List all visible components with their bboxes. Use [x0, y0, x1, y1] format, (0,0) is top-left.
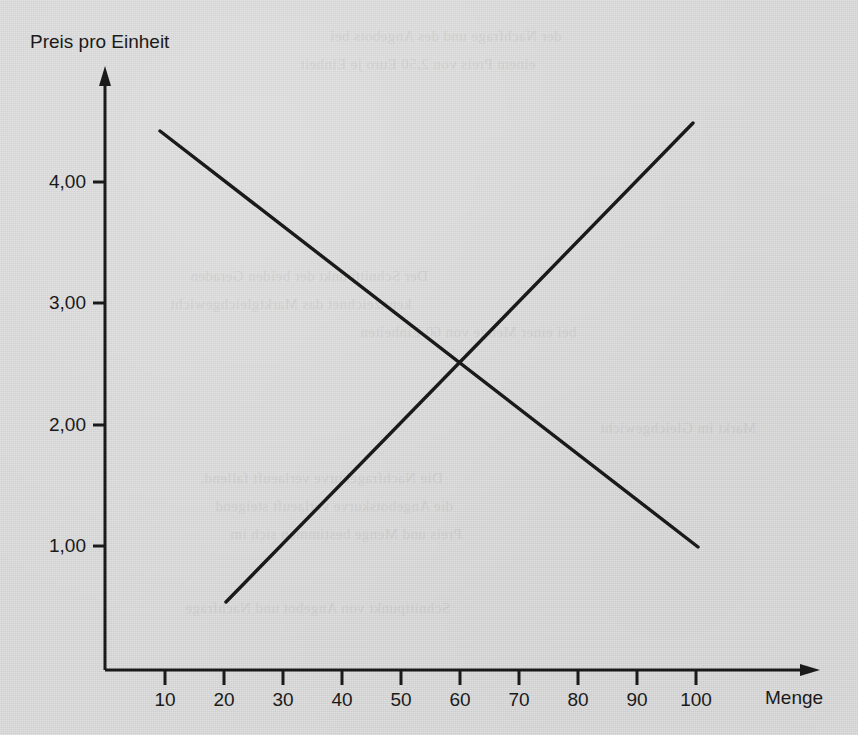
x-tick-label-10: 10: [154, 689, 175, 711]
x-tick-label-30: 30: [272, 689, 293, 711]
x-axis-arrow-icon: [800, 664, 820, 676]
x-tick-label-100: 100: [680, 689, 712, 711]
x-tick-label-20: 20: [213, 689, 234, 711]
y-axis-title: Preis pro Einheit: [30, 31, 169, 53]
chart-svg: [0, 0, 858, 735]
y-axis-arrow-icon: [99, 66, 111, 86]
x-tick-label-90: 90: [626, 689, 647, 711]
supply-demand-chart: Preis pro Einheit Menge 4,00 3,00 2,00 1…: [0, 0, 858, 735]
x-axis-ticks: [165, 670, 696, 685]
y-tick-label-400: 4,00: [0, 171, 86, 193]
y-tick-label-200: 2,00: [0, 414, 86, 436]
x-tick-label-80: 80: [567, 689, 588, 711]
x-tick-label-60: 60: [449, 689, 470, 711]
supply-curve: [226, 123, 693, 602]
x-axis-title: Menge: [765, 687, 823, 709]
x-tick-label-40: 40: [331, 689, 352, 711]
chart-page: der Nachfrage und des Angebots bei einem…: [0, 0, 858, 735]
x-tick-label-70: 70: [508, 689, 529, 711]
x-tick-label-50: 50: [390, 689, 411, 711]
demand-curve: [160, 131, 698, 547]
y-tick-label-300: 3,00: [0, 292, 86, 314]
y-tick-label-100: 1,00: [0, 535, 86, 557]
